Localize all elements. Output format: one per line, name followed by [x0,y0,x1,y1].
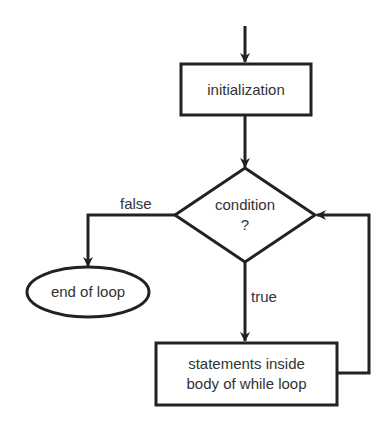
false-branch-arrow [88,215,175,266]
false-edge-label: false [120,195,152,212]
loop-body-label-line1: statements inside [156,355,337,372]
end-of-loop-label: end of loop [27,283,149,300]
loop-body-label-line2: body of while loop [156,375,337,392]
condition-diamond [175,168,315,262]
condition-question-mark: ? [195,216,295,233]
loop-body-box [156,343,337,405]
true-edge-label: true [251,288,277,305]
initialization-label: initialization [181,81,311,98]
condition-label: condition [195,196,295,213]
